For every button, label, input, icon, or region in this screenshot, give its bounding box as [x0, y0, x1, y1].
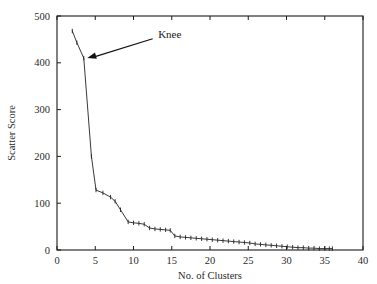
- x-tick-label: 10: [128, 255, 139, 266]
- y-axis-title: Scatter Score: [6, 105, 17, 161]
- x-tick-label: 20: [205, 255, 216, 266]
- x-tick-label: 30: [281, 255, 292, 266]
- x-tick-label: 40: [358, 255, 369, 266]
- plot-frame: [57, 16, 363, 250]
- x-axis-tick-labels: 0510152025303540: [54, 255, 368, 266]
- arrow-head-icon: [87, 52, 97, 58]
- knee-annotation-label: Knee: [158, 28, 181, 40]
- x-tick-label: 5: [93, 255, 98, 266]
- x-tick-label: 35: [320, 255, 331, 266]
- scatter-score-line-chart: 0510152025303540 0100200300400500 Knee N…: [0, 0, 377, 284]
- y-axis-ticks: [57, 16, 61, 250]
- x-tick-label: 25: [243, 255, 254, 266]
- y-tick-label: 300: [34, 104, 50, 115]
- chart-figure: 0510152025303540 0100200300400500 Knee N…: [0, 0, 377, 284]
- y-tick-label: 400: [34, 57, 50, 68]
- arrow-shaft: [94, 39, 152, 57]
- x-axis-title: No. of Clusters: [178, 270, 242, 281]
- x-axis-ticks-top: [57, 16, 363, 20]
- y-tick-label: 200: [34, 151, 50, 162]
- x-tick-label: 15: [167, 255, 178, 266]
- y-axis-tick-labels: 0100200300400500: [34, 11, 50, 256]
- y-tick-label: 0: [45, 245, 50, 256]
- y-tick-label: 500: [34, 11, 50, 22]
- knee-annotation-arrow: [87, 39, 152, 59]
- data-line-scatter-score: [72, 31, 332, 249]
- x-tick-label: 0: [54, 255, 59, 266]
- data-point-markers: [72, 29, 332, 251]
- y-tick-label: 100: [34, 198, 50, 209]
